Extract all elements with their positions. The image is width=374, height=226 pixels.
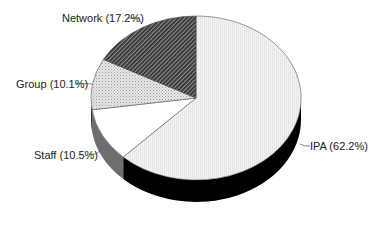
pie-chart	[0, 0, 374, 226]
staff-label: Staff (10.5%)	[34, 149, 98, 161]
ipa-leader	[300, 144, 310, 146]
ipa-label: IPA (62.2%)	[310, 140, 368, 152]
network-label: Network (17.2%)	[62, 12, 144, 24]
group-label: Group (10.1%)	[16, 78, 88, 90]
